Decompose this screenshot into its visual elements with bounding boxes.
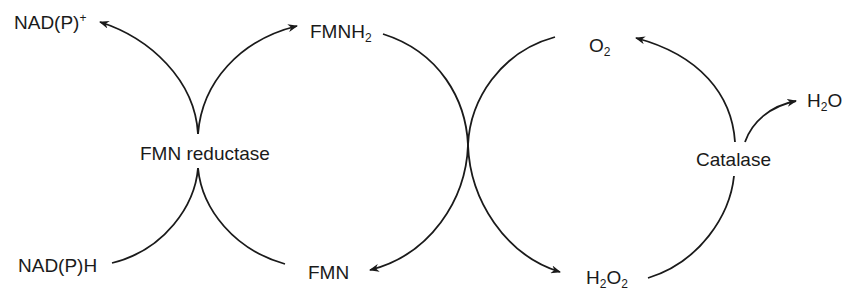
fmnh2-subscript: 2: [365, 31, 372, 45]
arrow-fmn-into-reductase: [198, 168, 285, 264]
node-o2: O2: [589, 36, 610, 58]
enzyme-fmn-reductase: FMN reductase: [140, 144, 270, 163]
arrow-catalase-to-h2o: [745, 101, 796, 142]
h2o2-h: H: [586, 267, 600, 288]
h2o2-o: O: [606, 267, 621, 288]
fmnh2-base: FMNH: [310, 21, 365, 42]
node-nadp-plus: NAD(P)+: [14, 12, 86, 32]
node-nadph: NAD(P)H: [18, 256, 97, 275]
arrow-fmnh2-to-h2o2: [383, 34, 560, 272]
fmn-reductase-label: FMN reductase: [140, 143, 270, 164]
arrow-nadph-to-nadp: [112, 168, 198, 263]
catalase-label: Catalase: [696, 149, 771, 170]
h2o2-subscript-2: 2: [621, 277, 628, 291]
h2o-o: O: [827, 90, 842, 111]
node-h2o2: H2O2: [586, 268, 628, 290]
o2-base: O: [589, 35, 604, 56]
enzyme-catalase: Catalase: [696, 150, 771, 169]
nadph-label: NAD(P)H: [18, 255, 97, 276]
arrow-h2o2-to-catalase: [648, 176, 734, 278]
fmn-label: FMN: [308, 262, 349, 283]
nadp-base: NAD(P): [14, 12, 79, 33]
arrow-reductase-to-nadp-plus: [100, 22, 198, 134]
arrow-reductase-to-fmnh2: [198, 26, 297, 134]
node-fmnh2: FMNH2: [310, 22, 372, 44]
h2o-h: H: [807, 90, 821, 111]
o2-subscript: 2: [604, 45, 611, 59]
arrow-o2-to-fmn: [370, 37, 555, 270]
nadp-superscript: +: [79, 11, 86, 25]
node-fmn: FMN: [308, 263, 349, 282]
node-h2o: H2O: [807, 91, 842, 113]
arrow-catalase-to-o2: [636, 38, 735, 142]
